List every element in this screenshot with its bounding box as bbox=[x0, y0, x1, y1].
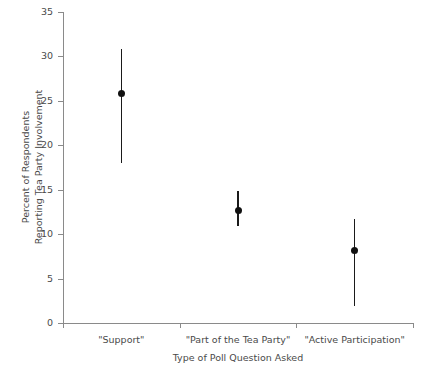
y-axis-title: Percent of Respondents Reporting Tea Par… bbox=[19, 37, 45, 297]
data-series-layer bbox=[0, 0, 425, 380]
y-axis-title-line-1: Percent of Respondents bbox=[19, 37, 32, 297]
data-point-marker bbox=[235, 207, 242, 214]
error-bar bbox=[354, 219, 355, 306]
chart-canvas: 05101520253035 "Support""Part of the Tea… bbox=[0, 0, 425, 380]
data-point-marker bbox=[118, 90, 125, 97]
x-axis-title: Type of Poll Question Asked bbox=[63, 352, 413, 363]
data-point-marker bbox=[351, 247, 358, 254]
y-axis-title-line-2: Reporting Tea Party Involvement bbox=[32, 37, 45, 297]
error-bar bbox=[121, 49, 122, 163]
